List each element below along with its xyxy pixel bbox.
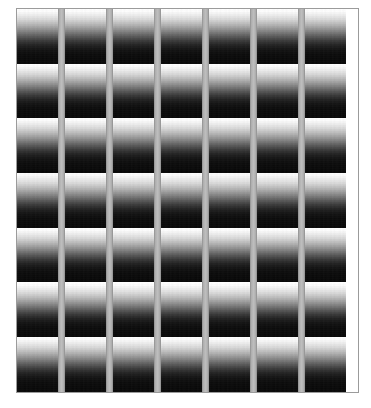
cell-noise-texture [257,173,298,228]
column-separator-6 [298,9,305,392]
column-separator-4 [202,9,209,392]
gradient-cell-r7-c3 [113,337,154,392]
gradient-cell-r6-c4 [161,283,202,338]
gradient-cell-r2-c4 [161,64,202,119]
gradient-cell-r2-c2 [65,64,106,119]
cell-noise-texture [257,9,298,64]
cell-noise-texture [305,64,346,119]
gradient-cell-r4-c5 [209,173,250,228]
cell-noise-texture [113,228,154,283]
gradient-cell-r7-c1 [17,337,58,392]
column-separator-3 [154,9,161,392]
cell-noise-texture [17,283,58,338]
gradient-cell-r1-c2 [65,9,106,64]
gradient-cell-r2-c5 [209,64,250,119]
column-separator-2 [106,9,113,392]
cell-noise-texture [209,228,250,283]
cell-noise-texture [113,283,154,338]
gradient-cell-r5-c2 [65,228,106,283]
cell-noise-texture [65,283,106,338]
gradient-cell-r5-c3 [113,228,154,283]
cell-noise-texture [305,283,346,338]
cell-noise-texture [161,337,202,392]
gradient-cell-r4-c3 [113,173,154,228]
gradient-cell-r5-c6 [257,228,298,283]
gradient-cell-r2-c1 [17,64,58,119]
cell-noise-texture [209,118,250,173]
cell-noise-texture [113,64,154,119]
cell-noise-texture [161,173,202,228]
cell-noise-texture [209,64,250,119]
cell-noise-texture [257,337,298,392]
gradient-cell-r5-c7 [305,228,346,283]
cell-noise-texture [161,283,202,338]
gradient-cell-r3-c4 [161,118,202,173]
gradient-cell-r4-c2 [65,173,106,228]
gradient-cell-r1-c6 [257,9,298,64]
gradient-cell-r6-c7 [305,283,346,338]
cell-noise-texture [17,228,58,283]
gradient-column-1 [17,9,58,392]
cell-noise-texture [113,118,154,173]
cell-noise-texture [209,173,250,228]
gradient-cell-r4-c7 [305,173,346,228]
cell-noise-texture [65,64,106,119]
cell-noise-texture [161,228,202,283]
cell-noise-texture [209,9,250,64]
gradient-cell-r7-c6 [257,337,298,392]
gradient-cell-r7-c4 [161,337,202,392]
cell-noise-texture [113,337,154,392]
gradient-column-5 [209,9,250,392]
cell-noise-texture [305,228,346,283]
cell-noise-texture [17,118,58,173]
page-title: Gradient Grid Pattern [0,0,1,1]
cell-noise-texture [305,118,346,173]
gradient-cell-r5-c1 [17,228,58,283]
cell-noise-texture [209,283,250,338]
gradient-cell-r1-c4 [161,9,202,64]
gradient-cell-r1-c3 [113,9,154,64]
cell-noise-texture [65,228,106,283]
cell-noise-texture [209,337,250,392]
gradient-cell-r7-c2 [65,337,106,392]
screenshot-canvas: Gradient Grid Pattern [0,0,371,408]
cell-noise-texture [17,64,58,119]
gradient-cell-r5-c5 [209,228,250,283]
gradient-cell-r3-c6 [257,118,298,173]
cell-noise-texture [65,118,106,173]
cell-noise-texture [161,64,202,119]
gradient-cell-r7-c7 [305,337,346,392]
gradient-cell-r4-c4 [161,173,202,228]
gradient-cell-r5-c4 [161,228,202,283]
gradient-column-3 [113,9,154,392]
cell-noise-texture [161,9,202,64]
gradient-grid-frame [17,9,358,392]
gradient-cell-r3-c7 [305,118,346,173]
cell-noise-texture [257,283,298,338]
gradient-cell-r6-c3 [113,283,154,338]
cell-noise-texture [65,173,106,228]
cell-noise-texture [113,9,154,64]
gradient-cell-r4-c1 [17,173,58,228]
cell-noise-texture [17,9,58,64]
gradient-column-7 [305,9,346,392]
gradient-cell-r7-c5 [209,337,250,392]
gradient-cell-r2-c7 [305,64,346,119]
gradient-column-2 [65,9,106,392]
cell-noise-texture [17,173,58,228]
cell-noise-texture [305,173,346,228]
cell-noise-texture [113,173,154,228]
gradient-cell-r3-c3 [113,118,154,173]
gradient-cell-r4-c6 [257,173,298,228]
cell-noise-texture [305,337,346,392]
cell-noise-texture [161,118,202,173]
cell-noise-texture [305,9,346,64]
gradient-cell-r3-c2 [65,118,106,173]
gradient-column-6 [257,9,298,392]
cell-noise-texture [17,337,58,392]
cell-noise-texture [257,64,298,119]
gradient-cell-r6-c1 [17,283,58,338]
column-separator-1 [58,9,65,392]
gradient-cell-r2-c6 [257,64,298,119]
gradient-cell-r6-c5 [209,283,250,338]
